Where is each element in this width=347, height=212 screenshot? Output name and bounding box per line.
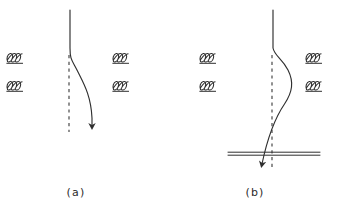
panel-b-coils: [200, 54, 322, 92]
coil-upper-left: [200, 54, 216, 64]
coil-upper-right: [113, 54, 129, 64]
panel-b: (b): [200, 10, 322, 199]
coil-lower-right: [113, 82, 129, 92]
coil-upper-left: [7, 54, 23, 64]
coil-lower-right: [306, 82, 322, 92]
panel-a-coils: [7, 54, 129, 92]
panel-a: (a): [7, 10, 129, 199]
detector-plate: [228, 152, 320, 155]
particle-trajectory-b: [262, 10, 292, 164]
coil-upper-right: [306, 54, 322, 64]
coil-lower-left: [200, 82, 216, 92]
physics-figure: (a) (b): [0, 0, 347, 212]
panel-b-caption: (b): [245, 186, 264, 199]
panel-a-caption: (a): [67, 186, 86, 199]
coil-lower-left: [7, 82, 23, 92]
particle-trajectory-a: [70, 10, 92, 126]
